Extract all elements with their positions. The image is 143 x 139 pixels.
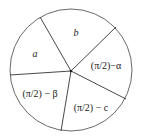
- segment-label-a: a: [33, 48, 38, 59]
- segment-label-complement-c: (π/2) − c: [74, 102, 109, 114]
- divider-alpha-c: [71, 71, 126, 99]
- segment-label-b: b: [74, 27, 79, 38]
- napier-circle-diagram: a b (π/2)−α (π/2) − β (π/2) − c: [0, 0, 143, 139]
- segment-label-complement-beta: (π/2) − β: [22, 88, 57, 100]
- center-point: [70, 70, 73, 73]
- divider-beta-a: [10, 71, 71, 75]
- divider-a-b: [40, 17, 71, 71]
- divider-c-beta: [61, 71, 71, 131]
- segment-label-complement-alpha: (π/2)−α: [91, 60, 122, 72]
